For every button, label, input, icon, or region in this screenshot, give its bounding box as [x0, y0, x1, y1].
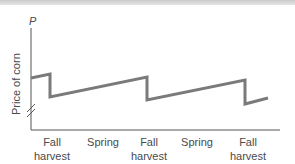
- tick-label: Fall: [140, 136, 158, 148]
- tick-label: Fall: [43, 136, 61, 148]
- tick-label: Fall: [239, 136, 257, 148]
- tick-label: harvest: [34, 150, 70, 162]
- y-axis-symbol: P: [29, 15, 37, 27]
- tick-label: harvest: [131, 150, 167, 162]
- y-axis-label: Price of corn: [10, 53, 22, 115]
- price-of-corn-chart: P Price of corn Fall harvest Spring Fall…: [0, 0, 295, 164]
- tick-label: harvest: [230, 150, 266, 162]
- tick-label: Spring: [87, 136, 119, 148]
- price-series-line: [31, 74, 268, 104]
- tick-label: Spring: [181, 136, 213, 148]
